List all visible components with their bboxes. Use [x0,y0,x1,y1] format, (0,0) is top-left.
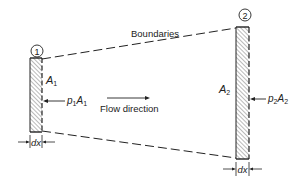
control-volume-diagram: 1 2 Boundaries A1 p1A1 Flow direction A2… [0,0,306,188]
force-1-arrow [43,99,65,103]
section-1-slab [30,58,42,132]
force-1-label: p1A1 [66,95,87,107]
area-1-label: A1 [45,74,57,87]
flow-direction-arrow [107,96,150,100]
force-2-label: p2A2 [267,93,288,105]
section-1-marker: 1 [31,45,43,57]
section-2-marker: 2 [239,9,251,21]
force-2-arrow [250,97,266,101]
thickness-1-label: dx [31,137,42,148]
section-1-number: 1 [34,47,39,57]
flow-direction-label: Flow direction [100,103,159,114]
bottom-boundary-line [42,131,236,158]
thickness-2-label: dx [237,164,248,175]
boundaries-label: Boundaries [131,28,179,39]
area-2-label: A2 [218,83,230,96]
section-2-number: 2 [242,11,247,21]
section-2-slab [236,27,249,159]
